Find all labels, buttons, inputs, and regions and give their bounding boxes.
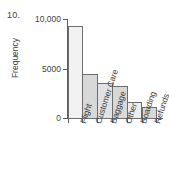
bar-flight [68, 26, 84, 119]
y-axis-title: Frequency [10, 27, 20, 89]
y-tick-label-0: 0 [33, 114, 61, 123]
y-tick-10000 [63, 19, 68, 20]
bar-chart-figure: 10. 10,000 5000 0 Frequency Flight [0, 0, 169, 187]
y-tick-label-10000: 10,000 [33, 15, 61, 24]
plot-area: 10,000 5000 0 Frequency Flight Customer … [0, 0, 169, 187]
y-tick-label-5000: 5000 [33, 65, 61, 74]
x-tick-0 [68, 119, 69, 123]
